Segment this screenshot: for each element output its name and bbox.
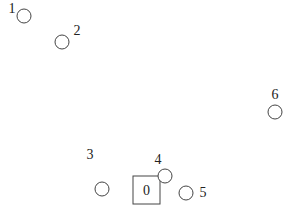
node-circle-icon (95, 182, 109, 196)
node-diagram: 0 123456 (0, 0, 298, 216)
node-label: 6 (272, 87, 279, 102)
node-6: 6 (268, 87, 282, 119)
node-label: 3 (87, 147, 94, 162)
node-label: 2 (74, 23, 81, 38)
node-circle-icon (17, 9, 31, 23)
node-circle-icon (55, 35, 69, 49)
node-circle-icon (179, 186, 193, 200)
node-2: 2 (55, 23, 81, 49)
node-circle-icon (268, 105, 282, 119)
node-group: 123456 (9, 1, 283, 200)
node-label: 1 (9, 1, 16, 16)
node-circle-icon (158, 169, 172, 183)
depot: 0 (133, 176, 160, 204)
node-1: 1 (9, 1, 32, 23)
depot-label: 0 (143, 183, 150, 198)
node-5: 5 (179, 185, 207, 200)
node-label: 5 (200, 185, 207, 200)
node-label: 4 (155, 152, 162, 167)
node-3: 3 (87, 147, 110, 196)
